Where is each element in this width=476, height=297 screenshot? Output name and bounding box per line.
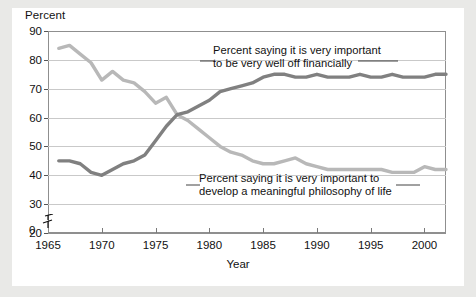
y-tick-label: 50: [12, 140, 42, 152]
x-axis-line: [48, 233, 446, 234]
y-tick-label: 60: [12, 112, 42, 124]
y-tick-mark: [44, 175, 48, 176]
y-tick-label: 90: [12, 25, 42, 37]
x-tick-label: 1995: [358, 239, 384, 251]
y-tick-label: 20: [12, 227, 42, 239]
y-tick-label: 70: [12, 83, 42, 95]
chart-figure: Percent 9080706050403020 196519701975198…: [0, 0, 476, 297]
y-tick-label: 80: [12, 54, 42, 66]
y-tick-mark: [44, 31, 48, 32]
y-tick-label: 30: [12, 198, 42, 210]
x-tick-label: 1980: [197, 239, 223, 251]
axis-break-icon: [41, 214, 55, 230]
y-tick-mark: [44, 146, 48, 147]
x-tick-label: 1985: [250, 239, 276, 251]
annotation-financial: Percent saying it is very important to b…: [213, 44, 381, 70]
y-tick-mark: [44, 89, 48, 90]
x-tick-label: 1970: [89, 239, 115, 251]
y-axis-title: Percent: [25, 9, 65, 21]
y-axis-zero-label: 0: [29, 224, 35, 236]
y-tick-mark: [44, 204, 48, 205]
y-tick-label: 40: [12, 169, 42, 181]
x-axis-title: Year: [0, 258, 476, 270]
x-tick-label: 1990: [304, 239, 330, 251]
annotation-philosophy: Percent saying it is very important to d…: [199, 172, 392, 198]
y-tick-mark: [44, 118, 48, 119]
y-tick-mark: [44, 60, 48, 61]
x-tick-label: 1975: [143, 239, 169, 251]
x-tick-label: 2000: [412, 239, 438, 251]
x-tick-label: 1965: [35, 239, 61, 251]
